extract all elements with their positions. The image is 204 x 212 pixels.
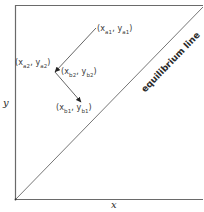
point-label-b2: (xb2, yb2) bbox=[61, 68, 97, 78]
label-close: ) bbox=[94, 67, 97, 76]
label-open: (x bbox=[97, 24, 105, 33]
label-mid: , y bbox=[30, 58, 40, 67]
label-mid: , y bbox=[76, 67, 86, 76]
label-open: (x bbox=[56, 103, 64, 112]
x-axis-label: x bbox=[111, 200, 117, 210]
equilibrium-line bbox=[16, 7, 204, 200]
label-close: ) bbox=[129, 24, 132, 33]
point-label-a1: (xa1, ya1) bbox=[97, 25, 133, 35]
point-label-b1: (xb1, yb1) bbox=[56, 104, 92, 114]
label-mid: , y bbox=[112, 24, 122, 33]
arrow-a1-to-a2 bbox=[55, 28, 96, 72]
label-open: (x bbox=[15, 58, 23, 67]
label-close: ) bbox=[89, 103, 92, 112]
origin-dot bbox=[15, 199, 17, 201]
label-y-sub: b1 bbox=[81, 108, 88, 114]
label-open: (x bbox=[61, 67, 69, 76]
label-close: ) bbox=[47, 58, 50, 67]
label-y-sub: b2 bbox=[86, 72, 93, 78]
label-mid: , y bbox=[71, 103, 81, 112]
equilibrium-diagram: (xa1, ya1) (xa2, ya2) (xb2, yb2) (xb1, y… bbox=[0, 0, 203, 212]
point-label-a2: (xa2, ya2) bbox=[15, 59, 51, 69]
y-axis-label: y bbox=[3, 98, 9, 108]
